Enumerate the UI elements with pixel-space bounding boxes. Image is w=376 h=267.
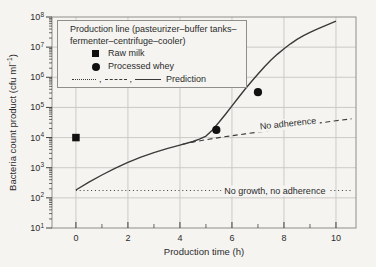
legend-item-processed-whey: Processed whey bbox=[92, 60, 246, 73]
legend-item-raw-milk: Raw milk bbox=[92, 47, 246, 60]
y-tick-label: 103 bbox=[30, 161, 44, 173]
dotted-line-sample-icon bbox=[72, 79, 96, 80]
point-processed-whey bbox=[254, 88, 262, 96]
figure: 1011021031041051061071080246810Productio… bbox=[0, 0, 376, 267]
legend-title-line2: fermenter–centrifuge–cooler) bbox=[70, 36, 246, 48]
x-tick-label: 2 bbox=[125, 233, 130, 243]
point-raw-milk bbox=[72, 134, 80, 142]
legend-item-label: Processed whey bbox=[108, 61, 174, 73]
x-axis-label: Production time (h) bbox=[164, 246, 244, 257]
legend-item-prediction: , , Prediction bbox=[72, 73, 246, 86]
y-tick-label: 104 bbox=[30, 131, 44, 143]
x-tick-label: 6 bbox=[229, 233, 234, 243]
circle-marker-icon bbox=[92, 63, 100, 71]
y-tick-label: 101 bbox=[30, 222, 44, 234]
y-tick-label: 102 bbox=[30, 191, 44, 203]
point-processed-whey bbox=[212, 126, 220, 134]
legend-title-line1: Production line (pasteurizer–buffer tank… bbox=[70, 24, 246, 36]
x-tick-label: 0 bbox=[73, 233, 78, 243]
y-tick-label: 106 bbox=[30, 71, 44, 83]
y-tick-label: 107 bbox=[30, 41, 44, 53]
y-tick-label: 105 bbox=[30, 101, 44, 113]
y-axis-label: Bacteria count product (cfu ml−1) bbox=[6, 54, 18, 191]
dashed-line-sample-icon bbox=[105, 79, 127, 80]
legend-item-label: Prediction bbox=[166, 74, 206, 86]
legend-separator: , bbox=[130, 74, 133, 86]
legend-separator: , bbox=[99, 74, 102, 86]
x-tick-label: 10 bbox=[331, 233, 341, 243]
y-tick-label: 108 bbox=[30, 11, 44, 23]
series-prediction-no-adherence bbox=[183, 119, 352, 145]
legend-item-label: Raw milk bbox=[108, 48, 145, 60]
x-tick-label: 4 bbox=[177, 233, 182, 243]
legend: Production line (pasteurizer–buffer tank… bbox=[57, 20, 247, 88]
square-marker-icon bbox=[92, 50, 99, 57]
x-tick-label: 8 bbox=[281, 233, 286, 243]
solid-line-sample-icon bbox=[135, 79, 161, 80]
